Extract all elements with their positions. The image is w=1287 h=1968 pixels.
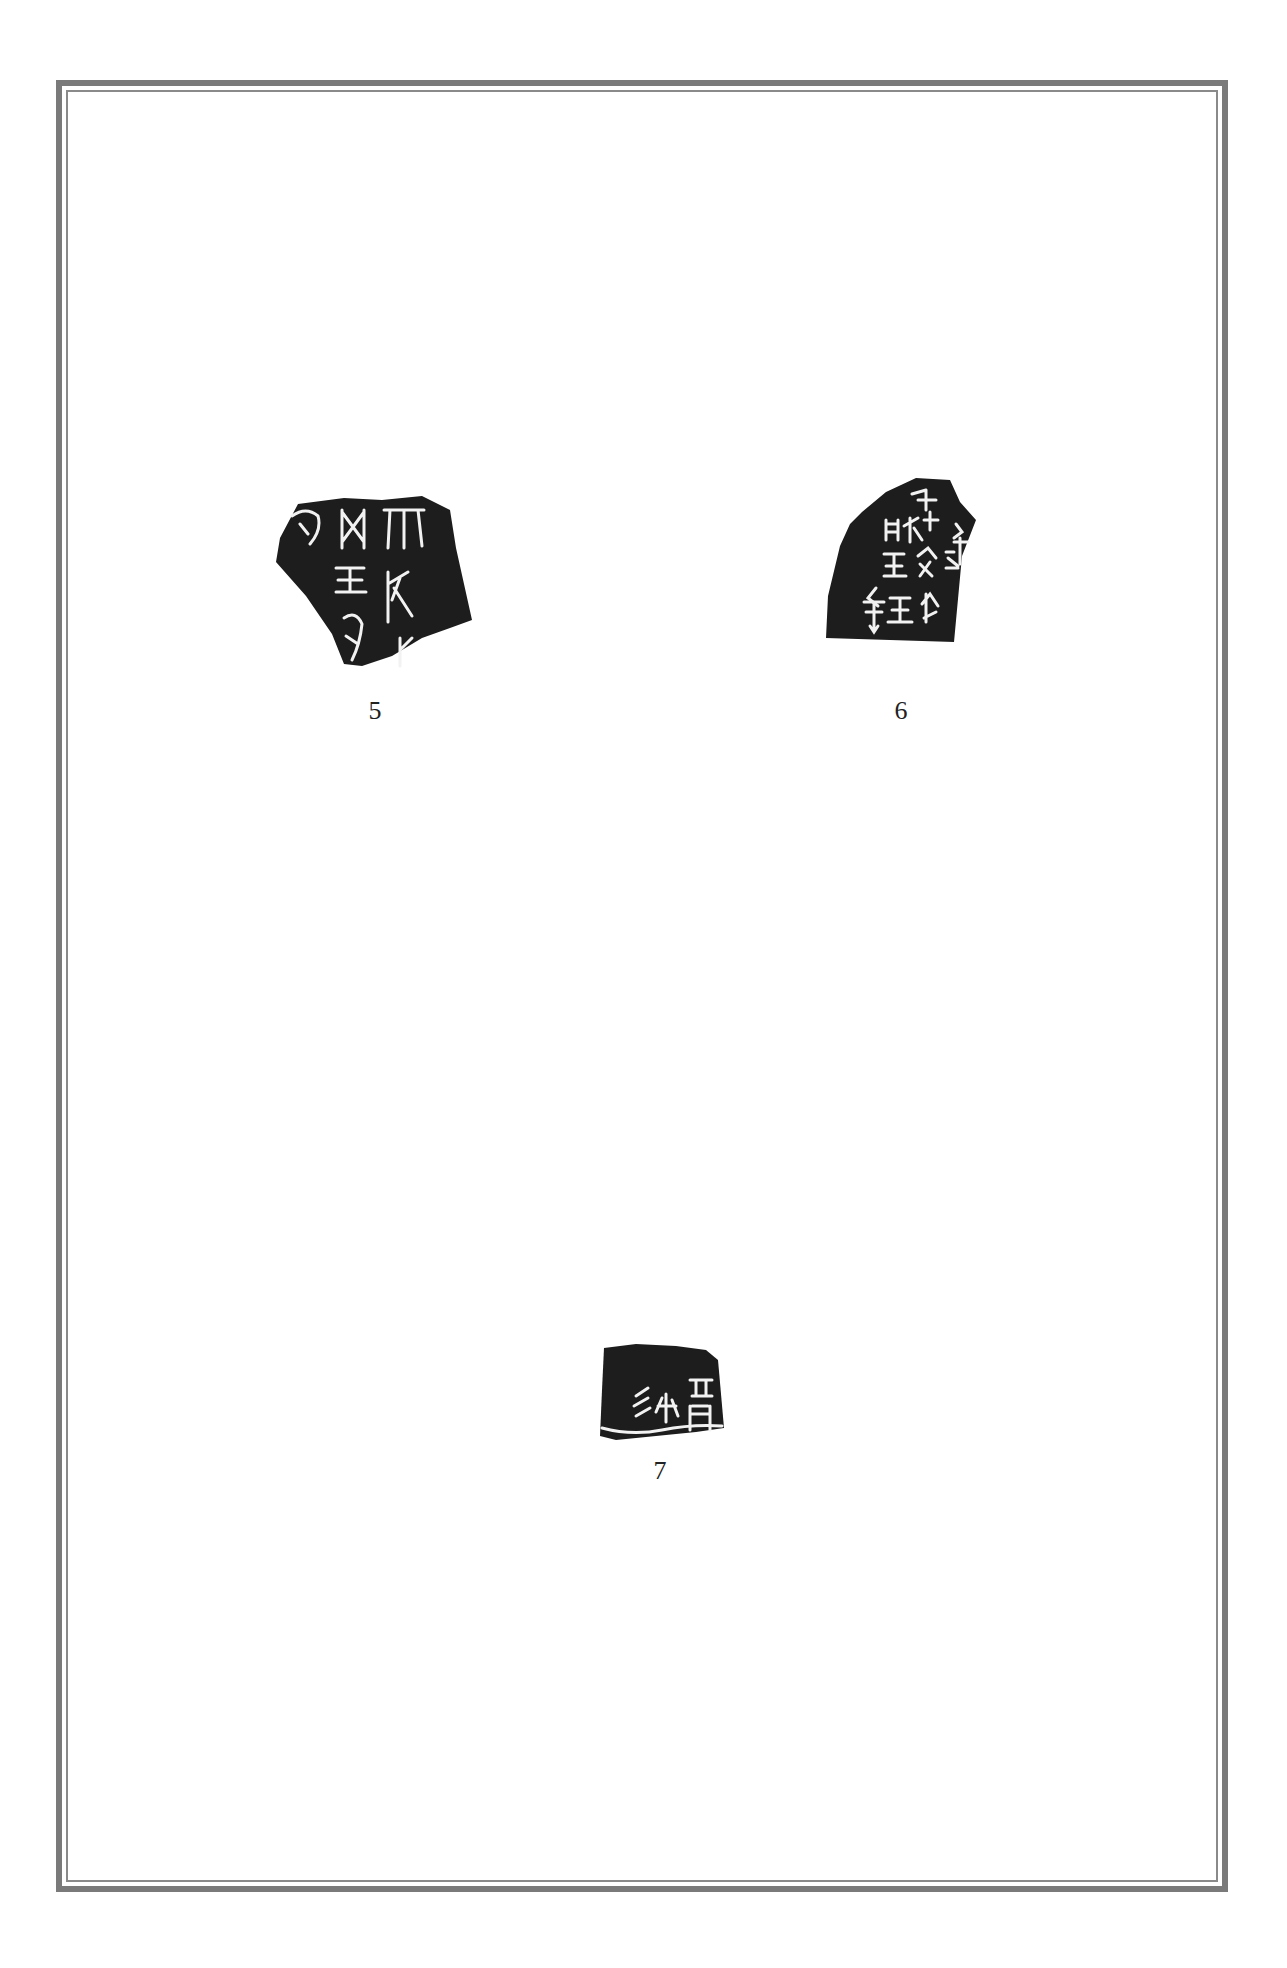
rubbing-7-image bbox=[596, 1340, 724, 1440]
page-border-inner bbox=[66, 90, 1218, 1882]
figure-5 bbox=[272, 488, 472, 668]
rubbing-5-image bbox=[272, 488, 472, 668]
figure-7 bbox=[596, 1340, 724, 1440]
rubbing-6-image bbox=[826, 472, 986, 644]
figure-5-number: 5 bbox=[355, 696, 395, 726]
figure-6-number: 6 bbox=[881, 696, 921, 726]
figure-7-number: 7 bbox=[640, 1456, 680, 1486]
figure-6 bbox=[826, 472, 986, 644]
